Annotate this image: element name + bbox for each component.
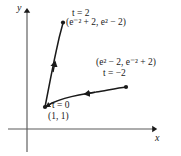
label-point-start: (1, 1): [48, 112, 69, 122]
marker-upper-endpoint: [61, 20, 65, 24]
label-t-equals-minus-2: t = −2: [103, 69, 126, 79]
label-point-lower-endpoint: (e² − 2, e⁻² + 2): [96, 58, 156, 68]
parametric-curve-figure: t = 2 (e⁻² + 2, e² − 2) (e² − 2, e⁻² + 2…: [0, 0, 181, 156]
direction-arrow-lower: [85, 92, 95, 94]
marker-lower-endpoint: [124, 85, 128, 89]
label-t-equals-0: t = 0: [52, 101, 70, 111]
label-point-upper-endpoint: (e⁻² + 2, e² − 2): [66, 18, 126, 28]
x-axis-label: x: [155, 133, 159, 143]
y-axis-label: y: [17, 3, 21, 13]
marker-origin-point: [43, 105, 47, 109]
